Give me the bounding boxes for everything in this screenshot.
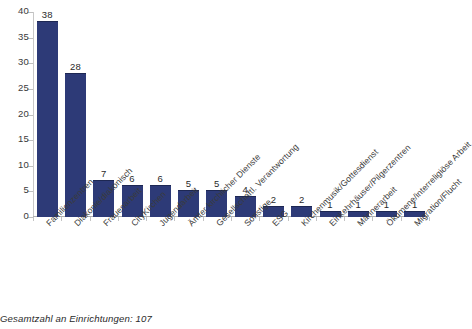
x-tick-mark [288,217,289,221]
y-tick-label: 10 [18,159,29,170]
bar-column[interactable]: 2 [291,12,312,217]
bar[interactable] [37,21,58,217]
bar-column[interactable]: 2 [263,12,284,217]
y-tick-label: 15 [18,133,29,144]
x-tick-mark [372,217,373,221]
bar-column[interactable]: 38 [37,12,58,217]
bar-value-label: 2 [299,194,304,205]
y-tick-label: 30 [18,56,29,67]
y-tick-label: 5 [24,184,29,195]
x-tick-mark [90,217,91,221]
bar-column[interactable]: 5 [178,12,199,217]
y-tick-label: 0 [24,210,29,221]
x-tick-mark [174,217,175,221]
bar-value-label: 28 [70,61,81,72]
y-tick-label: 20 [18,108,29,119]
bar-value-label: 7 [101,168,106,179]
bar-column[interactable]: 6 [150,12,171,217]
y-tick-label: 35 [18,31,29,42]
y-tick-label: 40 [18,5,29,16]
y-tick-label: 25 [18,82,29,93]
x-tick-mark [33,217,34,221]
bar-column[interactable]: 6 [122,12,143,217]
bar-value-label: 6 [158,173,163,184]
bar-value-label: 38 [42,9,53,20]
chart-footnote: Gesamtzahl an Einrichtungen: 107 [0,313,152,324]
